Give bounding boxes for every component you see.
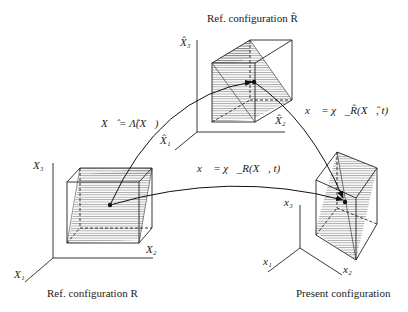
continuum-mechanics-diagram: Ref. configuration R̂ Ref. configuration… <box>0 0 408 312</box>
axis-x1 <box>268 248 300 272</box>
caption-ref-configuration: Ref. configuration R <box>47 287 138 299</box>
label-X3-hat: X̂₃ <box>180 36 191 48</box>
label-x1: x₁ <box>263 255 272 267</box>
label-X3: X₃ <box>33 159 44 171</box>
label-X2-hat: X̂₂ <box>275 114 286 126</box>
axis-x2 <box>300 248 342 275</box>
present-configuration <box>268 152 377 275</box>
spatial-point <box>343 200 347 204</box>
label-lambda-mapping: X⃗̂ = Λ̂(X⃗) <box>101 117 158 129</box>
label-x3: x₃ <box>284 196 293 208</box>
label-chi-hat-mapping: x⃗ = χ⃗_R̂(X⃗̂, t) <box>305 104 388 116</box>
caption-ref-configuration-hat: Ref. configuration R̂ <box>207 12 298 24</box>
ref-configuration-R-hat <box>175 40 292 150</box>
label-X1-hat: X̂₁ <box>160 134 171 146</box>
caption-present-configuration: Present configuration <box>296 287 390 299</box>
label-chi-mapping: x⃗ = χ⃗_R(X⃗, t) <box>197 162 280 174</box>
axis-X1-hat <box>175 132 197 150</box>
axis-X1 <box>25 258 53 282</box>
label-X1: X₁ <box>14 268 25 280</box>
ref-configuration-R <box>25 163 153 282</box>
label-x2: x₂ <box>343 263 352 275</box>
label-X2: X₂ <box>146 243 157 255</box>
